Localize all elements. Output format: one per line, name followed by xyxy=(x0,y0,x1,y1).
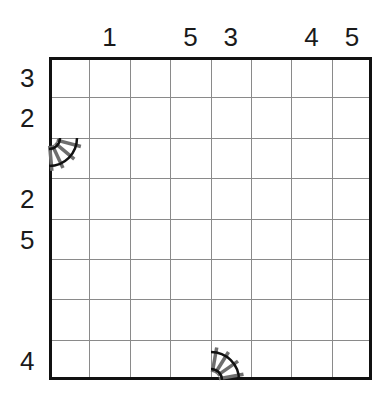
grid-cell[interactable] xyxy=(49,57,89,97)
grid-cell[interactable] xyxy=(49,138,89,178)
grid-cell[interactable] xyxy=(89,57,129,97)
grid-cell[interactable] xyxy=(130,259,170,299)
grid-cell[interactable] xyxy=(291,340,331,380)
row-clue: 3 xyxy=(20,65,50,91)
grid-cell[interactable] xyxy=(332,57,372,97)
column-clue: 1 xyxy=(90,24,130,50)
grid-cell[interactable] xyxy=(130,57,170,97)
grid-cell[interactable] xyxy=(130,340,170,380)
grid-cell[interactable] xyxy=(170,340,210,380)
grid-cell[interactable] xyxy=(89,259,129,299)
grid-cell[interactable] xyxy=(130,97,170,137)
grid-cell[interactable] xyxy=(211,259,251,299)
grid-cell[interactable] xyxy=(251,259,291,299)
grid-cell[interactable] xyxy=(49,219,89,259)
grid-cell[interactable] xyxy=(251,219,291,259)
grid-cell[interactable] xyxy=(130,219,170,259)
grid-cell[interactable] xyxy=(291,97,331,137)
grid-cell[interactable] xyxy=(211,340,251,380)
row-clue: 4 xyxy=(20,348,50,374)
puzzle-grid[interactable] xyxy=(49,57,372,380)
grid-cell[interactable] xyxy=(332,299,372,339)
grid-cell[interactable] xyxy=(211,299,251,339)
grid-cell[interactable] xyxy=(332,97,372,137)
grid-cell[interactable] xyxy=(251,138,291,178)
grid-cell[interactable] xyxy=(291,138,331,178)
grid-cell[interactable] xyxy=(291,178,331,218)
grid-cell[interactable] xyxy=(89,340,129,380)
grid-cell[interactable] xyxy=(291,219,331,259)
grid-cell[interactable] xyxy=(170,219,210,259)
grid-cell[interactable] xyxy=(332,138,372,178)
grid-cell[interactable] xyxy=(49,97,89,137)
grid-cell[interactable] xyxy=(170,259,210,299)
grid-cell[interactable] xyxy=(251,340,291,380)
grid-cell[interactable] xyxy=(130,138,170,178)
grid-cell[interactable] xyxy=(170,299,210,339)
grid-cell[interactable] xyxy=(130,299,170,339)
grid-cell[interactable] xyxy=(89,219,129,259)
grid-cell[interactable] xyxy=(332,259,372,299)
grid-cell[interactable] xyxy=(251,57,291,97)
grid-cell[interactable] xyxy=(211,178,251,218)
row-clue: 2 xyxy=(20,186,50,212)
column-clue: 4 xyxy=(292,24,332,50)
grid-cell[interactable] xyxy=(332,340,372,380)
grid-cell[interactable] xyxy=(211,219,251,259)
grid-cell[interactable] xyxy=(251,299,291,339)
grid-cell[interactable] xyxy=(251,178,291,218)
row-clue: 2 xyxy=(20,105,50,131)
grid-cell[interactable] xyxy=(49,259,89,299)
grid-cell[interactable] xyxy=(130,178,170,218)
grid-cell[interactable] xyxy=(170,97,210,137)
grid-cell[interactable] xyxy=(332,178,372,218)
grid-cell[interactable] xyxy=(211,97,251,137)
grid-cell[interactable] xyxy=(89,138,129,178)
grid-cell[interactable] xyxy=(89,97,129,137)
column-clue: 5 xyxy=(332,24,372,50)
grid-cell[interactable] xyxy=(49,340,89,380)
row-clue: 5 xyxy=(20,227,50,253)
grid-cell[interactable] xyxy=(291,299,331,339)
grid-cell[interactable] xyxy=(170,57,210,97)
grid-cell[interactable] xyxy=(89,178,129,218)
grid-cell[interactable] xyxy=(332,219,372,259)
grid-cell[interactable] xyxy=(89,299,129,339)
grid-cell[interactable] xyxy=(49,178,89,218)
grid-cell[interactable] xyxy=(170,138,210,178)
grid-cell[interactable] xyxy=(211,138,251,178)
grid-cell[interactable] xyxy=(291,259,331,299)
column-clue: 3 xyxy=(211,24,251,50)
grid-cell[interactable] xyxy=(251,97,291,137)
grid-cell[interactable] xyxy=(170,178,210,218)
grid-cell[interactable] xyxy=(49,299,89,339)
grid-cell[interactable] xyxy=(291,57,331,97)
column-clue: 5 xyxy=(170,24,210,50)
grid-cell[interactable] xyxy=(211,57,251,97)
